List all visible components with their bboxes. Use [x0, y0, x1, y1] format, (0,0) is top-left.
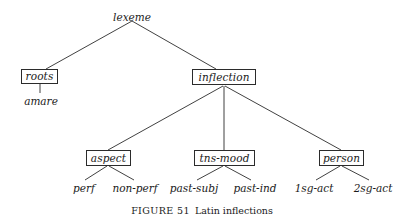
tree-edge-aspect-perf	[85, 166, 107, 180]
tree-node-aspect: aspect	[86, 150, 131, 166]
tree-leaf-2sg-act-label: 2sg-act	[354, 182, 393, 194]
tree-edge-lexeme-inflection	[132, 21, 216, 69]
figure-caption-title: Latin inflections	[195, 205, 273, 216]
tree-node-roots-label: roots	[26, 71, 54, 82]
tree-edge-person-2sg-act	[342, 166, 369, 180]
tree-node-roots: roots	[21, 69, 58, 84]
tree-leaf-past-ind-label: past-ind	[234, 182, 277, 194]
tree-edge-tns-mood-past-ind	[225, 166, 251, 180]
tree-node-inflection: inflection	[192, 69, 256, 85]
figure-caption: FIGURE 51Latin inflections	[0, 206, 404, 216]
tree-node-person: person	[319, 150, 364, 166]
tree-edge-inflection-person	[225, 86, 341, 150]
tree-leaf-1sg-act-label: 1sg-act	[295, 182, 334, 194]
tree-node-person-label: person	[323, 153, 360, 164]
tree-node-tns-mood: tns-mood	[194, 150, 255, 166]
tree-node-tns-mood-label: tns-mood	[199, 153, 249, 164]
tree-leaf-perf-label: perf	[73, 182, 95, 194]
tree-node-aspect-label: aspect	[91, 153, 126, 164]
tree-leaf-perf: perf	[73, 183, 95, 194]
tree-edge-tns-mood-past-subj	[197, 166, 223, 180]
tree-node-inflection-label: inflection	[198, 72, 249, 83]
figure-caption-number: FIGURE 51	[131, 205, 190, 216]
tree-leaf-non-perf: non-perf	[112, 183, 157, 194]
tree-leaf-amare: amare	[24, 96, 58, 107]
tree-leaf-non-perf-label: non-perf	[112, 182, 157, 194]
tree-leaf-amare-label: amare	[24, 95, 58, 107]
tree-leaf-2sg-act: 2sg-act	[354, 183, 393, 194]
tree-node-lexeme: lexeme	[113, 12, 151, 23]
tree-leaf-past-subj-label: past-subj	[170, 182, 218, 194]
tree-node-lexeme-label: lexeme	[113, 11, 151, 23]
tree-edge-lexeme-roots	[46, 21, 132, 69]
tree-edge-aspect-non-perf	[109, 166, 134, 180]
tree-edge-person-1sg-act	[316, 166, 340, 180]
tree-leaf-1sg-act: 1sg-act	[295, 183, 334, 194]
tree-edge-inflection-aspect	[108, 86, 223, 150]
tree-leaf-past-ind: past-ind	[234, 183, 277, 194]
figure-latin-inflections: lexeme roots inflection aspect tns-mood …	[0, 0, 404, 224]
tree-leaf-past-subj: past-subj	[170, 183, 218, 194]
